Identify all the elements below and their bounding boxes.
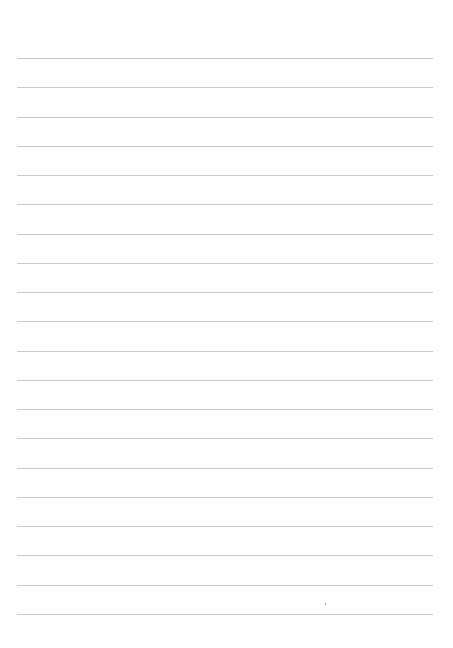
ruled-line [17,234,433,235]
lined-paper-page [0,0,453,648]
ruled-line [17,380,433,381]
ruled-line [17,292,433,293]
ruled-line [17,468,433,469]
ruled-line [17,263,433,264]
ruled-line [17,117,433,118]
ruled-line [17,438,433,439]
ruled-line [17,526,433,527]
ruled-line [17,321,433,322]
ruled-line [17,204,433,205]
ruled-line [17,555,433,556]
paper-speck [325,603,326,605]
ruled-line [17,409,433,410]
ruled-line [17,175,433,176]
ruled-line [17,146,433,147]
ruled-line [17,585,433,586]
ruled-line [17,351,433,352]
ruled-line [17,497,433,498]
ruled-line [17,614,433,615]
ruled-line [17,58,433,59]
ruled-line [17,87,433,88]
